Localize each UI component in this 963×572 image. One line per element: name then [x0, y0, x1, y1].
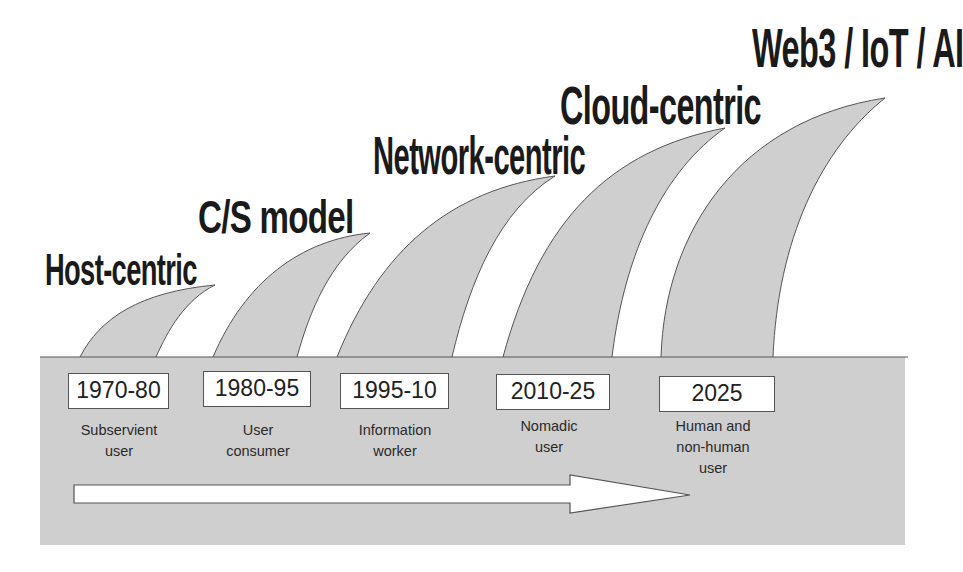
user-type-line: Information — [330, 420, 460, 441]
user-type-subservient: Subservient user — [54, 420, 184, 462]
user-type-line: consumer — [193, 441, 323, 462]
user-type-information-worker: Information worker — [330, 420, 460, 462]
period-box-2010-25: 2010-25 — [496, 374, 610, 410]
user-type-line: user — [648, 458, 778, 479]
user-type-consumer: User consumer — [193, 420, 323, 462]
period-box-2025: 2025 — [659, 376, 775, 412]
user-type-nomadic: Nomadic user — [484, 416, 614, 458]
era-title-network-centric: Network-centric — [373, 128, 585, 182]
user-type-line: User — [193, 420, 323, 441]
era-title-host-centric: Host-centric — [45, 248, 197, 292]
era-title-cs-model: C/S model — [198, 194, 353, 240]
wave-host-centric — [80, 285, 215, 357]
user-type-line: user — [484, 437, 614, 458]
era-title-cloud-centric: Cloud-centric — [560, 78, 761, 132]
user-type-line: Human and — [648, 416, 778, 437]
user-type-human-and-non-human: Human and non-human user — [648, 416, 778, 479]
user-type-line: non-human — [648, 437, 778, 458]
computing-eras-diagram: Host-centric C/S model Network-centric C… — [0, 0, 963, 572]
user-type-line: user — [54, 441, 184, 462]
era-title-web3-iot-ai: Web3 / IoT / AI — [752, 20, 963, 76]
period-box-1995-10: 1995-10 — [340, 373, 449, 409]
user-type-line: Subservient — [54, 420, 184, 441]
user-type-line: Nomadic — [484, 416, 614, 437]
user-type-line: worker — [330, 441, 460, 462]
period-box-1980-95: 1980-95 — [203, 371, 311, 407]
period-box-1970-80: 1970-80 — [68, 373, 169, 409]
